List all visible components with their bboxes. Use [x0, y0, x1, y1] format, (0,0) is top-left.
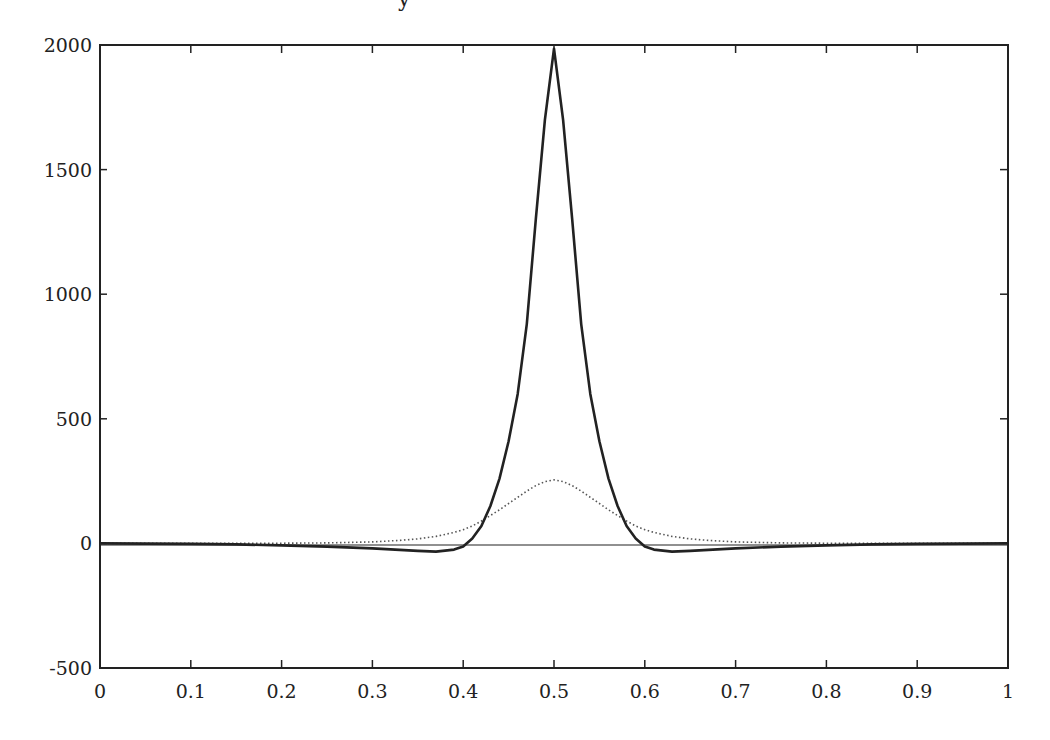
x-axis-ticks: [191, 45, 917, 668]
x-tick-label: 0.6: [630, 680, 660, 702]
dotted-series-line: [100, 480, 1008, 544]
x-tick-label: 0: [94, 680, 106, 702]
plot-frame: [100, 45, 1008, 668]
x-tick-label: 0.5: [539, 680, 569, 702]
y-tick-label: 2000: [44, 34, 92, 56]
y-tick-label: 0: [80, 532, 92, 554]
y-tick-label: 1500: [44, 159, 92, 181]
y-axis-ticks: [100, 170, 1008, 544]
x-tick-label: 0.3: [357, 680, 387, 702]
y-tick-label: -500: [49, 657, 92, 679]
x-tick-label: 0.2: [266, 680, 296, 702]
x-tick-label: 0.4: [448, 680, 478, 702]
x-tick-label: 0.8: [811, 680, 841, 702]
x-tick-label: 0.7: [720, 680, 750, 702]
x-tick-label: 0.9: [902, 680, 932, 702]
x-tick-label: 0.1: [176, 680, 206, 702]
chart-title-fragment: y: [397, 0, 411, 11]
solid-series-line: [100, 49, 1008, 552]
y-axis-tick-labels: -5000500100015002000: [44, 34, 92, 679]
x-axis-tick-labels: 00.10.20.30.40.50.60.70.80.91: [94, 680, 1014, 702]
y-tick-label: 1000: [44, 283, 92, 305]
y-tick-label: 500: [56, 408, 92, 430]
line-chart: y 00.10.20.30.40.50.60.70.80.91 -5000500…: [0, 0, 1050, 740]
x-tick-label: 1: [1002, 680, 1014, 702]
